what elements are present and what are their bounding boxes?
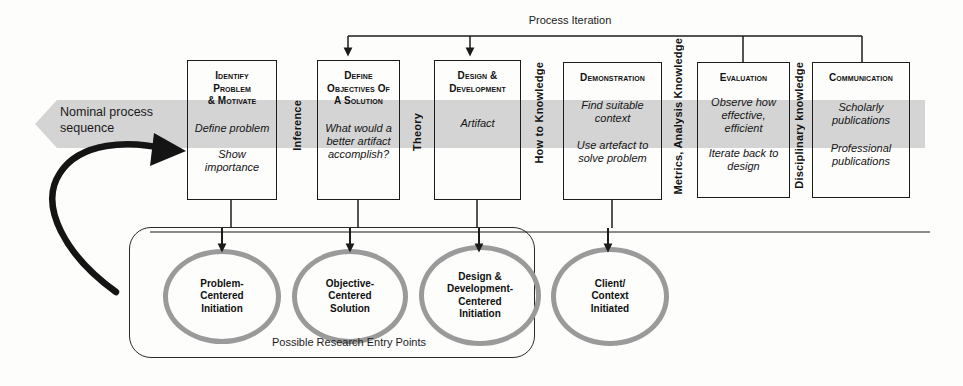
process-iteration-label: Process Iteration bbox=[490, 14, 650, 26]
box-title: Evaluation bbox=[720, 72, 767, 85]
entry-circle-label: Problem- Centered Initiation bbox=[196, 278, 247, 316]
entry-circle-design-development-centered-initiation[interactable]: Design & Development- Centered Initiatio… bbox=[419, 245, 541, 346]
entry-circle-client-context-initiated[interactable]: Client/ Context Initiated bbox=[551, 247, 669, 346]
entry-circle-problem-centered-initiation[interactable]: Problem- Centered Initiation bbox=[163, 249, 281, 344]
knowledge-label-how-to-knowledge: How to Knowledge bbox=[533, 62, 545, 164]
process-box-define-objectives[interactable]: Define Objectives of a Solution What wou… bbox=[317, 60, 400, 200]
process-box-identify-problem[interactable]: Identify Problem & Motivate Define probl… bbox=[187, 60, 277, 200]
process-box-communication[interactable]: Communication Scholarly publications Pro… bbox=[812, 62, 910, 198]
box-title: Communication bbox=[829, 72, 893, 85]
process-box-demonstration[interactable]: Demonstration Find suitable context Use … bbox=[563, 62, 662, 200]
box-line: Observe how effective, efficient bbox=[711, 96, 776, 135]
entry-points-caption: Possible Research Entry Points bbox=[234, 336, 464, 348]
box-title: Demonstration bbox=[580, 72, 645, 85]
entry-circle-label: Design & Development- Centered Initiatio… bbox=[443, 271, 517, 321]
dsrm-diagram: Nominal process sequence Process Iterati… bbox=[0, 0, 963, 386]
box-title: Design & Development bbox=[449, 70, 506, 95]
box-line: Use artefact to solve problem bbox=[577, 139, 649, 165]
entry-circle-label: Client/ Context Initiated bbox=[587, 278, 633, 316]
knowledge-label-metrics-analysis-knowledge: Metrics, Analysis Knowledge bbox=[672, 38, 684, 195]
box-line: Artifact bbox=[460, 117, 494, 130]
process-box-evaluation[interactable]: Evaluation Observe how effective, effici… bbox=[697, 62, 790, 198]
box-line: Scholarly publications bbox=[832, 101, 890, 127]
knowledge-label-inference: Inference bbox=[291, 100, 303, 151]
box-line: Iterate back to design bbox=[709, 147, 779, 173]
box-line: Professional publications bbox=[831, 142, 892, 168]
knowledge-label-theory: Theory bbox=[411, 113, 423, 151]
box-line: Define problem bbox=[195, 122, 270, 135]
box-line: What would a better artifact accomplish? bbox=[325, 122, 392, 161]
box-title: Define Objectives of a Solution bbox=[327, 70, 390, 108]
entry-circle-objective-centered-solution[interactable]: Objective- Centered Solution bbox=[292, 249, 408, 344]
process-box-design-development[interactable]: Design & Development Artifact bbox=[434, 60, 521, 200]
knowledge-label-disciplinary-knowledge: Disciplinary knowledge bbox=[793, 62, 805, 189]
box-line: Find suitable context bbox=[581, 99, 643, 125]
box-title: Identify Problem & Motivate bbox=[208, 70, 257, 108]
entry-circle-label: Objective- Centered Solution bbox=[322, 278, 378, 316]
box-line: Show importance bbox=[205, 148, 259, 174]
